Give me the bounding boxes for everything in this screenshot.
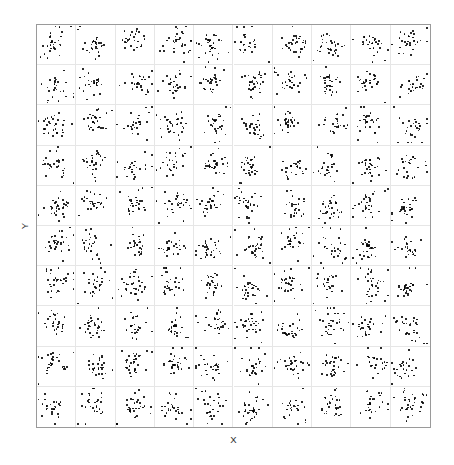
facet-panel <box>155 266 194 306</box>
data-point <box>134 293 136 295</box>
data-point <box>371 119 373 121</box>
data-point <box>369 169 371 171</box>
data-point <box>253 41 255 43</box>
data-point <box>95 163 97 165</box>
data-point <box>173 132 175 134</box>
data-point <box>246 337 248 339</box>
facet-panel <box>76 387 115 427</box>
data-point <box>361 201 363 203</box>
data-point <box>345 128 347 130</box>
data-point <box>190 76 192 78</box>
data-point <box>171 203 173 205</box>
data-point <box>220 311 222 313</box>
data-point <box>38 356 40 358</box>
data-point <box>88 360 90 362</box>
data-point <box>168 287 170 289</box>
data-point <box>165 271 167 273</box>
data-point <box>333 256 335 258</box>
data-point <box>375 294 377 296</box>
data-point <box>335 275 337 277</box>
facet-panel <box>273 347 312 387</box>
data-point <box>49 245 51 247</box>
data-point <box>89 239 91 241</box>
data-point <box>137 133 139 135</box>
data-point <box>217 319 219 321</box>
data-point <box>208 61 210 63</box>
data-point <box>43 160 45 162</box>
data-point <box>135 316 137 318</box>
data-point <box>213 400 215 402</box>
data-point <box>236 26 238 28</box>
data-point <box>326 248 328 250</box>
facet-panel <box>234 25 273 65</box>
data-point <box>102 159 104 161</box>
data-point <box>251 418 253 420</box>
data-point <box>415 250 417 252</box>
data-point <box>56 132 58 134</box>
data-point <box>181 327 183 329</box>
facet-panel <box>116 347 155 387</box>
data-point <box>387 49 389 51</box>
data-point <box>255 363 257 365</box>
data-point <box>342 262 344 264</box>
facet-panel <box>116 146 155 186</box>
data-point <box>170 170 172 172</box>
data-point <box>144 288 146 290</box>
data-point <box>256 367 258 369</box>
data-point <box>302 388 304 390</box>
data-point <box>253 76 255 78</box>
data-point <box>408 365 410 367</box>
data-point <box>263 134 265 136</box>
data-point <box>339 81 341 83</box>
data-point <box>101 321 103 323</box>
data-point <box>295 406 297 408</box>
data-point <box>92 273 94 275</box>
data-point <box>246 217 248 219</box>
data-point <box>290 71 292 73</box>
data-point <box>134 127 136 129</box>
data-point <box>207 212 209 214</box>
data-point <box>63 175 65 177</box>
data-point <box>331 244 333 246</box>
data-point <box>408 120 410 122</box>
data-point <box>47 408 49 410</box>
data-point <box>92 335 94 337</box>
data-point <box>401 377 403 379</box>
data-point <box>170 353 172 355</box>
data-point <box>422 88 424 90</box>
data-point <box>225 106 227 108</box>
data-point <box>195 367 197 369</box>
data-point <box>178 368 180 370</box>
data-point <box>205 370 207 372</box>
data-point <box>259 290 261 292</box>
data-point <box>55 318 57 320</box>
data-point <box>218 116 220 118</box>
data-point <box>170 130 172 132</box>
data-point <box>332 320 334 322</box>
data-point <box>82 239 84 241</box>
data-point <box>337 209 339 211</box>
data-point <box>94 241 96 243</box>
facet-panel <box>234 65 273 105</box>
data-point <box>213 119 215 121</box>
data-point <box>90 86 92 88</box>
data-point <box>259 329 261 331</box>
data-point <box>177 28 179 30</box>
facet-panel <box>391 65 430 105</box>
data-point <box>140 86 142 88</box>
data-point <box>49 316 51 318</box>
data-point <box>92 174 94 176</box>
data-point <box>415 121 417 123</box>
data-point <box>63 90 65 92</box>
data-point <box>374 38 376 40</box>
facet-panel <box>37 306 76 346</box>
data-point <box>166 175 168 177</box>
data-point <box>375 285 377 287</box>
data-point <box>47 57 49 59</box>
data-point <box>58 322 60 324</box>
data-point <box>331 250 333 252</box>
data-point <box>173 253 175 255</box>
data-point <box>221 423 223 425</box>
data-point <box>330 395 332 397</box>
data-point <box>45 118 47 120</box>
